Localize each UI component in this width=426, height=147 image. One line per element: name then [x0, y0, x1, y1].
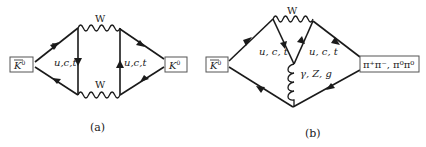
gluon-penguin-loop	[288, 64, 294, 107]
penguin-boson-label: γ, Z, g	[300, 68, 332, 79]
arrow-icon	[140, 75, 149, 82]
arrow-icon	[116, 60, 124, 68]
quark-line-b-left	[273, 19, 294, 64]
feynman-diagrams: W W u,c,t u,c,t K0 K0 (a) W	[0, 0, 426, 147]
w-label-b: W	[287, 5, 298, 16]
w-boson-a-top	[78, 25, 120, 31]
caption-a: (a)	[90, 121, 105, 134]
quark-label-b-right: u, c, t	[309, 46, 339, 57]
w-boson-a-bottom	[78, 92, 120, 98]
w-boson-b	[273, 16, 313, 22]
final-state-b: π⁺π⁻, π⁰π⁰	[363, 59, 414, 70]
diagram-a-box: W W u,c,t u,c,t K0 K0 (a)	[10, 13, 187, 134]
quark-label-a-left: u,c,t	[54, 57, 77, 68]
w-label-a-bottom: W	[95, 79, 106, 90]
w-label-a-top: W	[95, 13, 106, 24]
arrow-icon	[243, 37, 252, 46]
caption-b: (b)	[305, 127, 321, 140]
diagram-b-penguin: W u, c, t u, c, t γ, Z, g K0 π⁺π⁻, π⁰π⁰ …	[206, 5, 419, 140]
quark-label-b-left: u, c, t	[259, 46, 289, 57]
quark-label-a-right: u,c,t	[124, 57, 147, 68]
